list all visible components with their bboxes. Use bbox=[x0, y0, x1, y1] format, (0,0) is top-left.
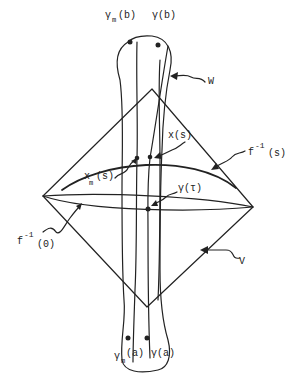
arrow-w bbox=[174, 75, 205, 82]
diagram-canvas: γ m (b) γ(b) W x(s) x m (s) f -1 (s) γ(τ… bbox=[0, 0, 298, 382]
label-gamma-m-b-sub: m bbox=[112, 17, 116, 24]
arrowhead-gamma-tau bbox=[151, 200, 158, 206]
arrow-x-s bbox=[157, 142, 185, 157]
label-w: W bbox=[208, 77, 214, 87]
point-gamma-b bbox=[156, 43, 161, 48]
diagram-figure bbox=[0, 0, 298, 382]
label-gamma-m-a-main: γ bbox=[114, 352, 120, 362]
region-w-outline bbox=[117, 36, 171, 372]
label-gamma-m-a-arg: (a) bbox=[126, 349, 144, 359]
arrow-v bbox=[204, 250, 240, 258]
point-gamma-a bbox=[145, 336, 150, 341]
label-gamma-tau: γ(τ) bbox=[178, 184, 202, 194]
label-v: V bbox=[239, 257, 245, 267]
label-gamma-b: γ(b) bbox=[152, 11, 176, 21]
label-f-inv-s-sup: -1 bbox=[255, 142, 265, 150]
label-x-s: x(s) bbox=[168, 131, 192, 141]
label-f-inv-0-main: f bbox=[17, 237, 23, 247]
label-f-inv-s-main: f bbox=[248, 148, 254, 158]
label-f-inv-0-arg: (0) bbox=[37, 240, 55, 250]
point-x-s bbox=[148, 155, 153, 160]
arrow-gamma-tau bbox=[154, 192, 177, 204]
point-gamma-m-b bbox=[128, 40, 133, 45]
point-gamma-m-a bbox=[126, 336, 131, 341]
arrowhead-w bbox=[170, 72, 178, 80]
arrow-f-inv-s bbox=[214, 151, 245, 168]
label-gamma-m-a-sub: m bbox=[121, 358, 125, 365]
arrowhead-x-s bbox=[154, 152, 162, 159]
label-gamma-a: γ(a) bbox=[151, 349, 175, 359]
label-x-m-s-sub: m bbox=[89, 180, 93, 187]
label-f-inv-s-arg: (s) bbox=[268, 149, 286, 159]
label-gamma-m-b-main: γ bbox=[105, 11, 111, 21]
label-x-m-s-arg: (s) bbox=[96, 172, 114, 182]
point-x-m-s bbox=[135, 156, 140, 161]
curve-gamma-m bbox=[133, 42, 137, 362]
point-gamma-tau bbox=[146, 207, 151, 212]
label-f-inv-0-sup: -1 bbox=[24, 231, 34, 239]
label-gamma-m-b-arg: (b) bbox=[118, 11, 136, 21]
